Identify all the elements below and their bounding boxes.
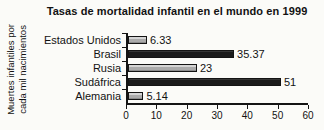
infant-mortality-bar-chart: Tasas de mortalidad infantil en el mundo…	[0, 0, 324, 130]
bar-area: 35.37	[126, 47, 316, 61]
bar-area: 51	[126, 75, 316, 89]
y-axis-label-line-1: Muertes infantiles por	[5, 24, 16, 115]
bar	[128, 64, 197, 72]
bar	[128, 92, 143, 100]
y-axis-label-line-2: cada mil nacimientos	[17, 25, 28, 114]
x-tick-label: 0	[123, 110, 129, 121]
chart-row: Sudáfrica51	[34, 75, 316, 89]
x-tick-label: 30	[211, 110, 222, 121]
plot-area: Estados Unidos6.33Brasil35.37Rusia23Sudá…	[34, 33, 316, 103]
chart-title: Tasas de mortalidad infantil en el mundo…	[36, 5, 318, 17]
y-axis-label-text: Muertes infantiles porcada mil nacimient…	[5, 24, 29, 115]
x-tick-label: 10	[151, 110, 162, 121]
category-label: Estados Unidos	[34, 34, 126, 46]
bar	[128, 36, 147, 44]
x-axis-tick	[156, 105, 157, 109]
x-tick-label: 50	[272, 110, 283, 121]
category-label: Rusia	[34, 62, 126, 74]
value-label: 23	[200, 62, 212, 74]
category-label: Alemania	[34, 90, 126, 102]
x-axis-tick	[247, 105, 248, 109]
bar-area: 5.14	[126, 89, 316, 103]
bar	[128, 78, 281, 86]
x-tick-label: 60	[302, 110, 313, 121]
bar-area: 6.33	[126, 33, 316, 47]
value-label: 6.33	[150, 34, 171, 46]
bar-area: 23	[126, 61, 316, 75]
x-axis-tick	[126, 105, 127, 109]
x-axis: 0102030405060	[126, 103, 308, 127]
chart-row: Brasil35.37	[34, 47, 316, 61]
x-axis-tick	[278, 105, 279, 109]
category-label: Brasil	[34, 48, 126, 60]
bar	[128, 50, 234, 58]
value-label: 35.37	[237, 48, 265, 60]
chart-row: Alemania5.14	[34, 89, 316, 103]
x-tick-label: 40	[242, 110, 253, 121]
value-label: 5.14	[146, 90, 167, 102]
x-axis-tick	[308, 105, 309, 109]
y-axis-label: Muertes infantiles porcada mil nacimient…	[2, 10, 32, 128]
chart-row: Estados Unidos6.33	[34, 33, 316, 47]
x-axis-tick	[217, 105, 218, 109]
category-label: Sudáfrica	[34, 76, 126, 88]
value-label: 51	[284, 76, 296, 88]
x-axis-tick	[187, 105, 188, 109]
chart-row: Rusia23	[34, 61, 316, 75]
x-tick-label: 20	[181, 110, 192, 121]
